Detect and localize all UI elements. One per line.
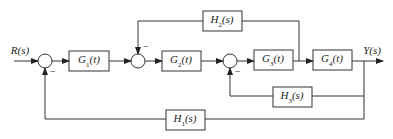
summing-junction-2 <box>131 54 145 68</box>
block-g3: G3(t) <box>262 52 284 67</box>
block-g4: G4(t) <box>321 52 343 67</box>
block-g2: G2(t) <box>170 53 192 68</box>
input-label: R(s) <box>11 44 29 56</box>
block-h1: H1(s) <box>173 112 196 127</box>
sign-s3: − <box>235 66 241 77</box>
sign-s1: − <box>50 66 56 77</box>
block-g1: G1(t) <box>78 53 100 68</box>
sign-s2: − <box>143 41 149 52</box>
block-h2: H2(s) <box>210 13 233 28</box>
block-h3: H3(s) <box>280 89 303 104</box>
output-label: Y(s) <box>363 44 381 56</box>
